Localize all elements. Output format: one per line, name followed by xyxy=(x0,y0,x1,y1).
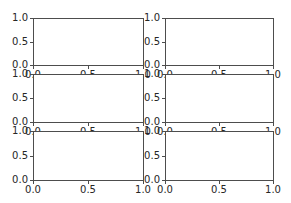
subplot-axes-row3-col2 xyxy=(165,131,274,181)
y-tick-mark xyxy=(162,131,165,132)
y-tick-label: 1.0 xyxy=(9,126,28,136)
y-tick-mark xyxy=(162,74,165,75)
y-tick-label: 1.0 xyxy=(141,126,160,136)
y-tick-label: 0.5 xyxy=(141,151,160,161)
y-tick-mark xyxy=(30,156,33,157)
y-tick-mark xyxy=(162,156,165,157)
y-tick-mark xyxy=(162,42,165,43)
y-tick-label: 0.5 xyxy=(9,93,28,103)
subplot-axes-row2-col2 xyxy=(165,74,274,123)
x-tick-label: 1.0 xyxy=(263,185,283,195)
y-tick-label: 1.0 xyxy=(9,69,28,79)
y-tick-label: 0.5 xyxy=(9,151,28,161)
y-tick-label: 1.0 xyxy=(141,13,160,23)
y-tick-mark xyxy=(30,131,33,132)
x-tick-label: 0.5 xyxy=(209,185,229,195)
y-tick-mark xyxy=(30,74,33,75)
x-tick-label: 0.5 xyxy=(78,185,98,195)
subplot-axes-row2-col1 xyxy=(33,74,144,123)
subplot-axes-row1-col1 xyxy=(33,18,144,66)
subplot-axes-row3-col1 xyxy=(33,131,144,181)
y-tick-mark xyxy=(30,42,33,43)
y-tick-label: 0.5 xyxy=(9,37,28,47)
y-tick-label: 0.5 xyxy=(141,93,160,103)
y-tick-label: 1.0 xyxy=(141,69,160,79)
subplot-axes-row1-col2 xyxy=(165,18,274,66)
y-tick-label: 0.5 xyxy=(141,37,160,47)
x-tick-label: 0.0 xyxy=(155,185,175,195)
y-tick-mark xyxy=(30,98,33,99)
y-tick-mark xyxy=(30,18,33,19)
x-tick-label: 1.0 xyxy=(133,185,153,195)
y-tick-label: 1.0 xyxy=(9,13,28,23)
y-tick-mark xyxy=(162,98,165,99)
y-tick-mark xyxy=(162,18,165,19)
x-tick-label: 0.0 xyxy=(23,185,43,195)
